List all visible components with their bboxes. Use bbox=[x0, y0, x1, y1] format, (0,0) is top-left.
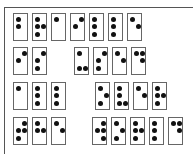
braille-dot-icon bbox=[177, 121, 182, 126]
braille-dot-icon bbox=[121, 58, 126, 63]
braille-dot-icon bbox=[92, 24, 97, 29]
braille-dot-icon bbox=[92, 17, 97, 22]
frame-top-border bbox=[4, 7, 193, 8]
braille-cell bbox=[149, 117, 164, 145]
braille-dot-icon bbox=[35, 58, 40, 63]
braille-cell bbox=[127, 13, 142, 41]
braille-cell bbox=[74, 47, 89, 75]
braille-cell bbox=[152, 82, 167, 110]
braille-dot-icon bbox=[98, 86, 103, 91]
braille-dot-icon bbox=[16, 24, 21, 29]
braille-cell bbox=[95, 82, 110, 110]
braille-dot-icon bbox=[136, 24, 141, 29]
braille-dot-icon bbox=[22, 128, 27, 133]
braille-dot-icon bbox=[41, 51, 46, 56]
braille-dot-icon bbox=[171, 121, 176, 126]
braille-cell bbox=[93, 47, 108, 75]
braille-dot-icon bbox=[35, 86, 40, 91]
braille-dot-icon bbox=[152, 128, 157, 133]
braille-dot-icon bbox=[35, 32, 40, 37]
braille-cell bbox=[111, 117, 126, 145]
braille-dot-icon bbox=[16, 128, 21, 133]
braille-cell bbox=[130, 117, 145, 145]
braille-cell bbox=[89, 13, 104, 41]
braille-dot-icon bbox=[123, 101, 128, 106]
braille-dot-icon bbox=[54, 17, 59, 22]
braille-dot-icon bbox=[139, 128, 144, 133]
braille-dot-icon bbox=[152, 136, 157, 141]
braille-dot-icon bbox=[130, 17, 135, 22]
braille-dot-icon bbox=[77, 66, 82, 71]
braille-dot-icon bbox=[35, 66, 40, 71]
braille-cell bbox=[51, 82, 66, 110]
braille-dot-icon bbox=[111, 32, 116, 37]
braille-cell bbox=[131, 47, 146, 75]
braille-dot-icon bbox=[54, 121, 59, 126]
braille-dot-icon bbox=[142, 93, 147, 98]
braille-dot-icon bbox=[22, 121, 27, 126]
braille-cell bbox=[13, 13, 28, 41]
braille-dot-icon bbox=[54, 86, 59, 91]
braille-dot-icon bbox=[41, 128, 46, 133]
braille-dot-icon bbox=[177, 128, 182, 133]
braille-dot-icon bbox=[155, 93, 160, 98]
braille-dot-icon bbox=[22, 51, 27, 56]
braille-cell bbox=[92, 117, 107, 145]
braille-dot-icon bbox=[98, 101, 103, 106]
braille-dot-icon bbox=[35, 24, 40, 29]
braille-dot-icon bbox=[92, 32, 97, 37]
braille-dot-icon bbox=[60, 128, 65, 133]
braille-dot-icon bbox=[16, 17, 21, 22]
braille-dot-icon bbox=[54, 93, 59, 98]
braille-dot-icon bbox=[35, 93, 40, 98]
braille-dot-icon bbox=[35, 17, 40, 22]
braille-dot-icon bbox=[155, 86, 160, 91]
braille-dot-icon bbox=[96, 58, 101, 63]
braille-dot-icon bbox=[16, 136, 21, 141]
braille-cell bbox=[108, 13, 123, 41]
braille-dot-icon bbox=[140, 51, 145, 56]
braille-dot-icon bbox=[96, 66, 101, 71]
braille-dot-icon bbox=[79, 17, 84, 22]
braille-dot-icon bbox=[140, 58, 145, 63]
braille-cell bbox=[32, 13, 47, 41]
braille-dot-icon bbox=[54, 101, 59, 106]
braille-dot-icon bbox=[101, 128, 106, 133]
braille-dot-icon bbox=[102, 51, 107, 56]
braille-dot-icon bbox=[136, 86, 141, 91]
braille-cell bbox=[32, 82, 47, 110]
braille-cell bbox=[168, 117, 183, 145]
braille-cell bbox=[51, 13, 66, 41]
braille-dot-icon bbox=[104, 93, 109, 98]
braille-dot-icon bbox=[161, 93, 166, 98]
braille-dot-icon bbox=[111, 17, 116, 22]
braille-dot-icon bbox=[35, 121, 40, 126]
braille-dot-icon bbox=[155, 101, 160, 106]
braille-cell bbox=[133, 82, 148, 110]
braille-dot-icon bbox=[133, 121, 138, 126]
braille-cell bbox=[114, 82, 129, 110]
braille-dot-icon bbox=[115, 51, 120, 56]
braille-dot-icon bbox=[134, 51, 139, 56]
braille-dot-icon bbox=[114, 136, 119, 141]
braille-cell bbox=[51, 117, 66, 145]
braille-dot-icon bbox=[120, 128, 125, 133]
braille-dot-icon bbox=[83, 66, 88, 71]
braille-dot-icon bbox=[133, 128, 138, 133]
braille-cell bbox=[112, 47, 127, 75]
braille-dot-icon bbox=[117, 101, 122, 106]
braille-cell bbox=[32, 117, 47, 145]
braille-dot-icon bbox=[114, 121, 119, 126]
braille-dot-icon bbox=[111, 24, 116, 29]
braille-dot-icon bbox=[152, 121, 157, 126]
braille-cell bbox=[70, 13, 85, 41]
braille-dot-icon bbox=[117, 86, 122, 91]
braille-cell bbox=[13, 117, 28, 145]
braille-dot-icon bbox=[35, 101, 40, 106]
braille-dot-icon bbox=[117, 93, 122, 98]
braille-dot-icon bbox=[35, 128, 40, 133]
braille-cell bbox=[13, 82, 28, 110]
braille-dot-icon bbox=[101, 136, 106, 141]
braille-cell bbox=[32, 47, 47, 75]
frame-left-border bbox=[4, 7, 5, 154]
